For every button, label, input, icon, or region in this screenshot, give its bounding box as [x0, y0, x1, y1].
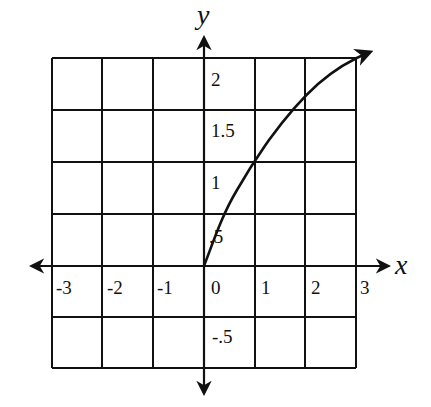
x-tick-label: -1 [157, 277, 173, 298]
y-axis-label: y [194, 0, 210, 30]
x-tick-label: -3 [56, 277, 72, 298]
x-tick-label: 3 [360, 277, 370, 298]
y-tick-label: 2 [211, 69, 221, 90]
y-tick-label: -.5 [212, 326, 233, 347]
y-tick-label: 1 [211, 172, 221, 193]
y-tick-label: 1.5 [211, 120, 235, 141]
graph: y x -3 -2 -1 0 1 2 3 2 1.5 1 .5 -.5 [0, 0, 431, 407]
x-tick-label: 2 [311, 277, 321, 298]
x-tick-label: 0 [211, 277, 221, 298]
x-tick-label: -2 [107, 277, 123, 298]
x-tick-labels: -3 -2 -1 0 1 2 3 [56, 277, 370, 298]
y-tick-label: .5 [209, 226, 223, 247]
x-axis-label: x [394, 249, 408, 280]
x-tick-label: 1 [261, 277, 271, 298]
function-curve [204, 52, 370, 266]
